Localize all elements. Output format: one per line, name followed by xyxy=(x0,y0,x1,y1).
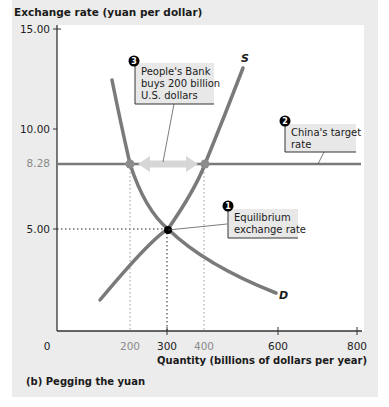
x-tick-label-200: 200 xyxy=(120,340,140,352)
ann1-line2: exchange rate xyxy=(234,224,306,235)
x-tick-label-600: 600 xyxy=(268,340,288,352)
x-tick-label-400: 400 xyxy=(194,340,214,352)
demand-curve-label: D xyxy=(279,289,288,302)
y-tick-label-15: 15.00 xyxy=(20,23,50,35)
ann2-badge-number: 2 xyxy=(282,117,288,126)
ann1-line1: Equilibrium xyxy=(234,212,291,223)
ann3-badge-number: 3 xyxy=(131,57,137,66)
supply-curve-label: S xyxy=(241,52,249,65)
y-tick-label-10: 10.00 xyxy=(20,123,50,135)
figure-caption: (b) Pegging the yuan xyxy=(26,376,145,387)
ann3-line1: People's Bank xyxy=(141,66,211,77)
demand-at-target-point xyxy=(126,160,135,169)
ann3-line3: U.S. dollars xyxy=(141,90,198,101)
ann2-line1: China's target xyxy=(291,127,361,138)
supply-at-target-point xyxy=(201,160,210,169)
ann3-line2: buys 200 billion xyxy=(141,78,220,89)
ann1-badge-number: 1 xyxy=(225,202,231,211)
exchange-rate-chart: Exchange rate (yuan per dollar) 15.00 10… xyxy=(0,0,389,407)
y-tick-label-5: 5.00 xyxy=(27,223,50,235)
y-axis-title: Exchange rate (yuan per dollar) xyxy=(14,6,202,18)
x-axis-title: Quantity (billions of dollars per year) xyxy=(157,355,367,366)
ann2-line2: rate xyxy=(291,139,311,150)
x-tick-label-0: 0 xyxy=(44,340,51,352)
x-tick-label-800: 800 xyxy=(347,340,367,352)
x-tick-label-300: 300 xyxy=(157,340,177,352)
y-tick-label-828: 8.28 xyxy=(27,157,50,169)
